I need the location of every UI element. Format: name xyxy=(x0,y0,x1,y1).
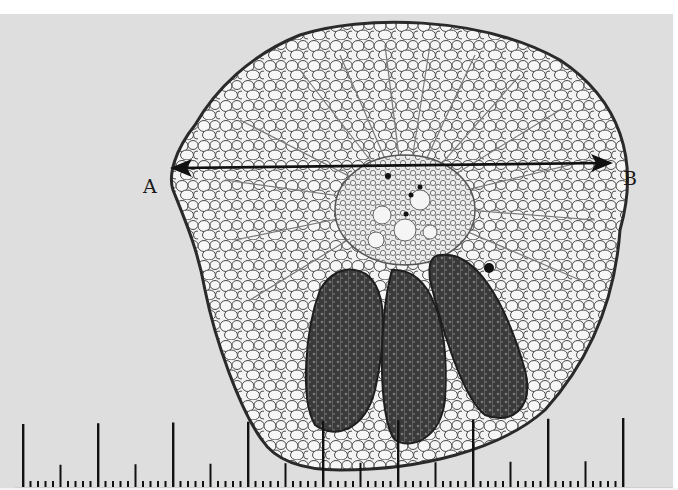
ruler-tick xyxy=(127,481,129,488)
ruler-tick xyxy=(442,481,444,488)
ruler-tick xyxy=(157,481,159,488)
central-stele xyxy=(335,155,475,265)
ruler-tick xyxy=(22,424,24,488)
ruler-tick xyxy=(180,481,182,488)
ruler-tick xyxy=(217,481,219,488)
ruler-tick xyxy=(262,481,264,488)
ruler-tick xyxy=(510,462,512,488)
stem-cross-section-photo: A B xyxy=(0,14,673,488)
ruler-tick xyxy=(457,481,459,488)
ruler-tick xyxy=(427,481,429,488)
ruler-tick xyxy=(435,462,437,488)
ruler-tick xyxy=(37,481,39,488)
ruler-tick xyxy=(30,481,32,488)
ruler-tick xyxy=(502,481,504,488)
ruler-tick xyxy=(367,481,369,488)
ruler-tick xyxy=(547,419,549,488)
ruler-tick xyxy=(540,481,542,488)
ruler-tick xyxy=(532,481,534,488)
ruler-tick xyxy=(292,481,294,488)
ruler-tick xyxy=(285,463,287,488)
ruler-tick xyxy=(195,481,197,488)
ruler-tick xyxy=(210,464,212,488)
ruler-tick xyxy=(112,481,114,488)
ruler-tick xyxy=(525,481,527,488)
ruler-tick xyxy=(585,461,587,488)
micrograph-figure: A B xyxy=(0,0,678,490)
ruler-tick xyxy=(105,481,107,488)
ruler-tick xyxy=(412,481,414,488)
ruler-tick xyxy=(120,481,122,488)
ruler-tick xyxy=(202,481,204,488)
ruler-tick xyxy=(397,420,399,488)
point-label-a: A xyxy=(143,177,157,196)
ruler-tick xyxy=(45,481,47,488)
ruler-tick xyxy=(600,481,602,488)
ruler-tick xyxy=(240,481,242,488)
ruler-tick xyxy=(487,481,489,488)
ruler-tick xyxy=(337,481,339,488)
ruler-tick xyxy=(352,481,354,488)
ruler-tick xyxy=(270,481,272,488)
ruler-tick xyxy=(60,465,62,488)
ruler-tick xyxy=(375,481,377,488)
ruler-tick xyxy=(382,481,384,488)
ruler-tick xyxy=(495,481,497,488)
ruler-tick xyxy=(330,481,332,488)
ruler-tick xyxy=(450,481,452,488)
ruler-tick xyxy=(97,423,99,488)
ruler-tick xyxy=(622,418,624,488)
ruler-tick xyxy=(405,481,407,488)
ruler-tick xyxy=(607,481,609,488)
ruler-tick xyxy=(577,481,579,488)
ruler-tick xyxy=(570,481,572,488)
ruler-tick xyxy=(345,481,347,488)
ruler-tick xyxy=(517,481,519,488)
ruler-tick xyxy=(420,481,422,488)
ruler-tick xyxy=(75,481,77,488)
ruler-tick xyxy=(172,423,174,489)
ruler-tick xyxy=(390,481,392,488)
ruler-tick xyxy=(52,481,54,488)
ruler-tick xyxy=(277,481,279,488)
ruler-tick xyxy=(465,481,467,488)
ruler-tick xyxy=(67,481,69,488)
ruler-tick xyxy=(307,481,309,488)
scale-ruler xyxy=(22,418,624,488)
ruler-tick xyxy=(472,420,474,489)
ruler-tick xyxy=(187,481,189,488)
ruler-tick xyxy=(225,481,227,488)
ruler-tick xyxy=(142,481,144,488)
ruler-tick xyxy=(562,481,564,488)
ruler-tick xyxy=(322,421,324,488)
ruler-tick xyxy=(135,464,137,488)
ruler-tick xyxy=(360,463,362,488)
ruler-tick xyxy=(315,481,317,488)
ruler-tick xyxy=(150,481,152,488)
ruler-tick xyxy=(592,481,594,488)
ruler-tick xyxy=(480,481,482,488)
ruler-tick xyxy=(232,481,234,488)
ruler-tick xyxy=(247,422,249,488)
point-label-b: B xyxy=(623,169,637,188)
ruler-tick xyxy=(615,481,617,488)
ruler-tick xyxy=(555,481,557,488)
ruler-tick xyxy=(82,481,84,488)
ruler-tick xyxy=(165,481,167,488)
ruler-tick xyxy=(90,481,92,488)
ruler-tick xyxy=(300,481,302,488)
ruler-tick xyxy=(255,481,257,488)
